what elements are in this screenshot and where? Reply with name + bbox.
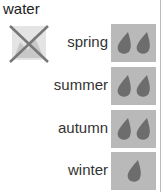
- water-level-box: [111, 110, 156, 148]
- water-title: water: [3, 0, 40, 18]
- season-row-autumn: autumn: [50, 110, 156, 148]
- season-row-spring: spring: [50, 24, 156, 62]
- water-drop-icon: [135, 74, 151, 98]
- season-label: winter: [68, 161, 108, 179]
- season-row-winter: winter: [50, 152, 156, 190]
- water-drop-icon: [116, 117, 132, 141]
- season-label: autumn: [58, 119, 108, 137]
- water-drop-icon: [126, 159, 142, 183]
- season-label: summer: [54, 76, 108, 94]
- crossed-out-image-icon: [6, 22, 52, 66]
- season-label: spring: [67, 33, 108, 51]
- season-row-summer: summer: [50, 67, 156, 105]
- water-level-box: [111, 152, 156, 190]
- water-drop-icon: [135, 117, 151, 141]
- water-drop-icon: [116, 74, 132, 98]
- water-level-box: [111, 67, 156, 105]
- divider: [160, 0, 161, 192]
- water-drop-icon: [135, 31, 151, 55]
- water-level-box: [111, 24, 156, 62]
- water-drop-icon: [116, 31, 132, 55]
